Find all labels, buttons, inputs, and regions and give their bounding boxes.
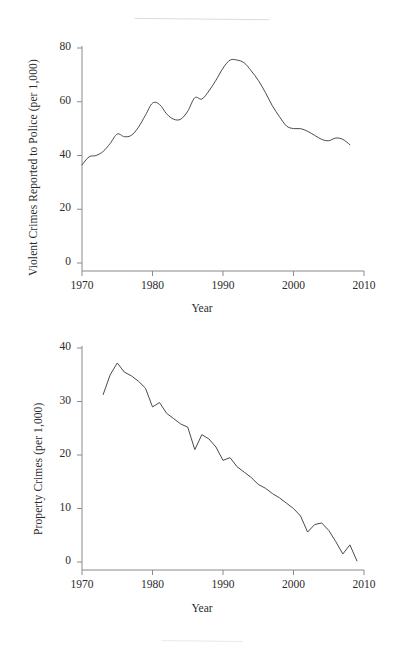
violent-y-tick-label: 20 — [31, 201, 71, 213]
chart-property-crimes: Property Crimes (per 1,000) Year 0102030… — [0, 330, 404, 630]
figure-page: Violent Crimes Reported to Police (per 1… — [0, 0, 404, 667]
property-y-tick-label: 0 — [31, 554, 71, 566]
violent-x-tick-label: 1990 — [198, 279, 248, 291]
violent-x-tick-label: 1970 — [57, 279, 107, 291]
chart-violent-crimes: Violent Crimes Reported to Police (per 1… — [0, 28, 404, 328]
violent-y-tick-label: 60 — [31, 94, 71, 106]
violent-x-tick-label: 2010 — [339, 279, 389, 291]
property-y-tick-label: 40 — [31, 340, 71, 352]
property-y-tick-label: 10 — [31, 501, 71, 513]
violent-crimes-y-axis-label: Violent Crimes Reported to Police (per 1… — [27, 59, 39, 276]
property-x-tick-label: 2000 — [269, 578, 319, 590]
violent-y-tick-label: 80 — [31, 40, 71, 52]
property-crimes-y-axis-label: Property Crimes (per 1,000) — [32, 403, 44, 535]
property-x-tick-label: 1990 — [198, 578, 248, 590]
property-x-tick-label: 1980 — [128, 578, 178, 590]
violent-y-tick-label: 40 — [31, 148, 71, 160]
property-y-tick-label: 20 — [31, 447, 71, 459]
page-top-rule — [0, 18, 404, 20]
property-y-tick-label: 30 — [31, 394, 71, 406]
page-bottom-rule — [0, 640, 404, 642]
property-x-tick-label: 1970 — [57, 578, 107, 590]
property-x-tick-label: 2010 — [339, 578, 389, 590]
property-crimes-x-axis-label: Year — [0, 602, 404, 614]
violent-crimes-x-axis-label: Year — [0, 302, 404, 314]
violent-y-tick-label: 0 — [31, 255, 71, 267]
violent-x-tick-label: 2000 — [269, 279, 319, 291]
violent-x-tick-label: 1980 — [128, 279, 178, 291]
